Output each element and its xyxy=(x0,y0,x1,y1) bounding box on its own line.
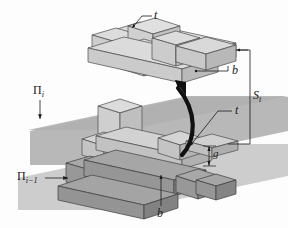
label-g: g xyxy=(213,148,219,159)
label-b-top: b xyxy=(232,64,238,76)
label-b-bottom: b xyxy=(157,207,163,219)
label-s-t: St xyxy=(253,89,261,105)
figure-canvas: t b St t g b Πi Πi−1 xyxy=(0,0,288,228)
label-t-mid: t xyxy=(235,104,238,116)
label-t-top: t xyxy=(154,9,157,21)
upper-assembly xyxy=(88,18,236,83)
label-plane-i-minus-1: Πi−1 xyxy=(17,170,38,186)
bottom-block-right-cube-b xyxy=(196,174,236,200)
label-plane-i: Πi xyxy=(33,84,44,100)
diagram-svg xyxy=(0,0,288,228)
